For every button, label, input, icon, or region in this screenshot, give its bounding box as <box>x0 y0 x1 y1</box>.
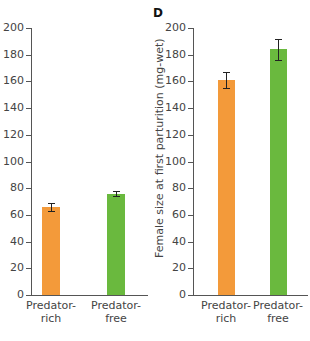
x-category-label: Predator- <box>196 300 256 312</box>
error-cap-top <box>275 39 282 40</box>
y-tick <box>26 28 31 29</box>
y-tick <box>188 108 193 109</box>
y-tick-label: 60 <box>0 209 24 221</box>
error-cap-top <box>48 203 55 204</box>
x-category-label: free <box>248 313 308 325</box>
x-category-label: rich <box>21 313 81 325</box>
bar-predator-rich <box>42 207 60 295</box>
y-tick <box>188 188 193 189</box>
bar-predator-free <box>270 49 287 295</box>
y-axis <box>193 28 194 296</box>
y-tick-label: 180 <box>0 49 24 61</box>
panel-letter: D <box>153 6 163 20</box>
y-tick <box>188 162 193 163</box>
chart-panel-left: 020406080100120140160180200Predator-rich… <box>0 0 150 341</box>
y-tick <box>26 81 31 82</box>
y-tick <box>26 242 31 243</box>
y-tick <box>26 108 31 109</box>
error-cap-bottom <box>113 196 120 197</box>
error-bar <box>278 39 279 60</box>
y-axis <box>31 28 32 296</box>
y-tick <box>26 55 31 56</box>
y-tick-label: 0 <box>156 289 186 301</box>
error-cap-bottom <box>223 88 230 89</box>
y-tick <box>26 188 31 189</box>
x-category-label: Predator- <box>248 300 308 312</box>
y-tick-label: 40 <box>0 236 24 248</box>
y-tick <box>188 215 193 216</box>
bar-predator-rich <box>218 80 235 295</box>
y-tick <box>188 55 193 56</box>
y-tick <box>188 28 193 29</box>
error-cap-top <box>113 191 120 192</box>
x-axis <box>31 295 148 296</box>
y-tick-label: 20 <box>0 262 24 274</box>
y-tick <box>26 215 31 216</box>
error-cap-bottom <box>48 211 55 212</box>
y-tick <box>26 268 31 269</box>
y-tick-label: 120 <box>0 129 24 141</box>
y-tick-label: 20 <box>156 262 186 274</box>
y-tick <box>26 295 31 296</box>
y-tick-label: 200 <box>156 22 186 34</box>
x-category-label: Predator- <box>86 300 146 312</box>
y-tick <box>188 242 193 243</box>
error-bar <box>51 203 52 211</box>
bar-predator-free <box>107 194 125 295</box>
y-tick <box>188 135 193 136</box>
chart-panel-d: 020406080100120140160180200Predator-rich… <box>150 0 310 341</box>
y-tick <box>188 295 193 296</box>
error-bar <box>226 72 227 88</box>
y-tick-label: 100 <box>0 156 24 168</box>
y-tick-label: 140 <box>0 102 24 114</box>
error-cap-top <box>223 72 230 73</box>
x-category-label: free <box>86 313 146 325</box>
y-tick-label: 160 <box>0 75 24 87</box>
y-axis-label: Female size at first parturition (mg-wet… <box>153 38 166 258</box>
x-category-label: rich <box>196 313 256 325</box>
y-tick-label: 200 <box>0 22 24 34</box>
error-cap-bottom <box>275 60 282 61</box>
y-tick <box>188 81 193 82</box>
y-tick <box>26 162 31 163</box>
x-category-label: Predator- <box>21 300 81 312</box>
x-axis <box>193 295 308 296</box>
y-tick <box>26 135 31 136</box>
y-tick-label: 80 <box>0 182 24 194</box>
y-tick <box>188 268 193 269</box>
